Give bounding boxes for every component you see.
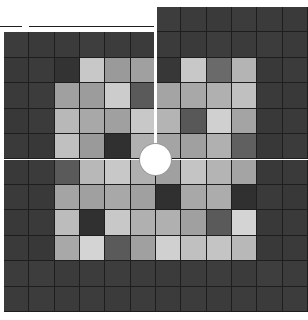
tile[interactable] <box>207 83 232 108</box>
tile[interactable] <box>283 261 308 286</box>
tile[interactable] <box>29 109 54 134</box>
tile[interactable] <box>105 185 130 210</box>
tile[interactable] <box>131 236 156 261</box>
tile[interactable] <box>131 32 156 57</box>
tile[interactable] <box>181 83 206 108</box>
tile[interactable] <box>4 109 29 134</box>
tile[interactable] <box>181 134 206 159</box>
tile[interactable] <box>181 236 206 261</box>
tile[interactable] <box>257 7 282 32</box>
tile[interactable] <box>207 236 232 261</box>
tile[interactable] <box>283 134 308 159</box>
tile[interactable] <box>156 109 181 134</box>
tile[interactable] <box>105 32 130 57</box>
slider-track[interactable] <box>154 0 157 148</box>
tile[interactable] <box>207 185 232 210</box>
tile[interactable] <box>55 109 80 134</box>
tile[interactable] <box>181 185 206 210</box>
tile[interactable] <box>257 261 282 286</box>
tile[interactable] <box>207 261 232 286</box>
tile[interactable] <box>105 83 130 108</box>
tile[interactable] <box>156 261 181 286</box>
tile[interactable] <box>283 236 308 261</box>
tile[interactable] <box>232 261 257 286</box>
tile[interactable] <box>80 160 105 185</box>
tile[interactable] <box>29 185 54 210</box>
tile[interactable] <box>207 210 232 235</box>
tile[interactable] <box>4 58 29 83</box>
tile[interactable] <box>207 287 232 312</box>
tile[interactable] <box>232 109 257 134</box>
tile[interactable] <box>232 236 257 261</box>
tile[interactable] <box>80 134 105 159</box>
tile[interactable] <box>181 210 206 235</box>
tile[interactable] <box>80 287 105 312</box>
tile[interactable] <box>55 83 80 108</box>
tile[interactable] <box>80 210 105 235</box>
tile[interactable] <box>156 236 181 261</box>
tile[interactable] <box>283 109 308 134</box>
tile[interactable] <box>283 160 308 185</box>
tile[interactable] <box>181 109 206 134</box>
tile[interactable] <box>232 185 257 210</box>
tile[interactable] <box>156 210 181 235</box>
tile[interactable] <box>55 287 80 312</box>
tile[interactable] <box>283 210 308 235</box>
tile[interactable] <box>156 7 181 32</box>
tile[interactable] <box>207 32 232 57</box>
tile[interactable] <box>29 210 54 235</box>
tile[interactable] <box>156 287 181 312</box>
tile[interactable] <box>105 134 130 159</box>
tile[interactable] <box>105 210 130 235</box>
tile[interactable] <box>257 160 282 185</box>
tile[interactable] <box>283 32 308 57</box>
tile[interactable] <box>156 185 181 210</box>
tile[interactable] <box>105 261 130 286</box>
tile[interactable] <box>4 134 29 159</box>
tile[interactable] <box>283 287 308 312</box>
tile[interactable] <box>207 109 232 134</box>
tile[interactable] <box>4 261 29 286</box>
tile[interactable] <box>29 32 54 57</box>
tile[interactable] <box>207 58 232 83</box>
tile[interactable] <box>232 210 257 235</box>
tile[interactable] <box>257 58 282 83</box>
tile[interactable] <box>257 287 282 312</box>
tile[interactable] <box>257 236 282 261</box>
tile[interactable] <box>181 7 206 32</box>
tile[interactable] <box>4 236 29 261</box>
tile[interactable] <box>55 261 80 286</box>
tile[interactable] <box>257 210 282 235</box>
tile[interactable] <box>156 32 181 57</box>
tile[interactable] <box>55 58 80 83</box>
tile[interactable] <box>80 83 105 108</box>
tile[interactable] <box>232 7 257 32</box>
tile[interactable] <box>207 7 232 32</box>
tile[interactable] <box>207 160 232 185</box>
tile[interactable] <box>131 109 156 134</box>
tile[interactable] <box>283 58 308 83</box>
tile[interactable] <box>4 185 29 210</box>
tile[interactable] <box>131 58 156 83</box>
tile[interactable] <box>232 287 257 312</box>
tile[interactable] <box>283 185 308 210</box>
tile[interactable] <box>80 32 105 57</box>
tile[interactable] <box>257 109 282 134</box>
tile[interactable] <box>181 287 206 312</box>
tile[interactable] <box>232 83 257 108</box>
tile[interactable] <box>207 134 232 159</box>
tile[interactable] <box>105 287 130 312</box>
tile[interactable] <box>156 83 181 108</box>
tile[interactable] <box>4 32 29 57</box>
tile[interactable] <box>181 32 206 57</box>
tile[interactable] <box>257 185 282 210</box>
tile[interactable] <box>29 287 54 312</box>
tile[interactable] <box>4 287 29 312</box>
tile[interactable] <box>283 83 308 108</box>
tile[interactable] <box>257 32 282 57</box>
tile[interactable] <box>257 83 282 108</box>
tile[interactable] <box>232 32 257 57</box>
tile[interactable] <box>105 58 130 83</box>
tile[interactable] <box>80 58 105 83</box>
tile[interactable] <box>181 261 206 286</box>
